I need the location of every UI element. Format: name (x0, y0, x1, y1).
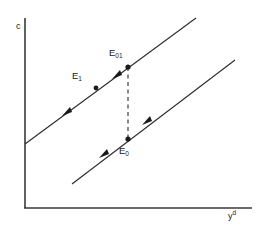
upper-line-arrow-lower (62, 107, 72, 116)
upper-consumption-line-group (25, 18, 196, 144)
lower-consumption-line (72, 60, 235, 184)
point-label-e1: E1 (72, 71, 82, 81)
point-marker-e1 (94, 86, 99, 91)
point-label-e0: E0 (119, 146, 129, 156)
point-label-e01: E01 (109, 48, 123, 58)
consumption-function-diagram: c yd E1 E01 E0 (0, 0, 259, 231)
point-marker-e0 (125, 136, 130, 141)
lower-consumption-line-group (72, 60, 235, 184)
y-axis-label: c (16, 22, 21, 31)
point-label-e0-subscript: 0 (125, 150, 129, 157)
point-label-e01-subscript: 01 (115, 52, 122, 59)
upper-line-arrow-upper (112, 70, 122, 79)
upper-consumption-line (25, 18, 196, 144)
axes-group (24, 18, 252, 208)
diagram-canvas (0, 0, 259, 231)
point-marker-e01 (125, 64, 130, 69)
x-axis-label-superscript: d (233, 209, 237, 216)
point-label-e1-subscript: 1 (78, 75, 82, 82)
x-axis-label: yd (228, 210, 236, 221)
